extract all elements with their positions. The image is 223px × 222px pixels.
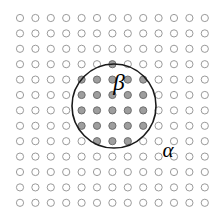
lattice-site-filled	[140, 122, 147, 129]
lattice-site-open	[47, 122, 54, 129]
lattice-site-open	[155, 199, 162, 206]
lattice-site-open	[155, 91, 162, 98]
lattice-site-open	[170, 107, 177, 114]
lattice-site-open	[16, 168, 23, 175]
lattice-site-open	[155, 153, 162, 160]
lattice-site-open	[140, 45, 147, 52]
lattice-site-filled	[124, 76, 131, 83]
lattice-site-open	[93, 153, 100, 160]
lattice-site-open	[32, 61, 39, 68]
lattice-site-open	[155, 30, 162, 37]
lattice-site-open	[47, 168, 54, 175]
lattice-site-open	[155, 138, 162, 145]
lattice-site-open	[201, 45, 208, 52]
lattice-site-open	[93, 30, 100, 37]
lattice-site-open	[63, 168, 70, 175]
lattice-site-open	[186, 122, 193, 129]
lattice-site-open	[124, 153, 131, 160]
lattice-site-open	[201, 61, 208, 68]
lattice-site-open	[201, 30, 208, 37]
lattice-site-open	[140, 153, 147, 160]
lattice-site-open	[186, 107, 193, 114]
lattice-site-open	[78, 61, 85, 68]
lattice-site-open	[124, 14, 131, 21]
lattice-site-open	[186, 168, 193, 175]
lattice-site-open	[32, 122, 39, 129]
lattice-site-open	[32, 107, 39, 114]
beta-label: β	[112, 70, 125, 95]
lattice-site-open	[63, 199, 70, 206]
lattice-plot-canvas: β α	[0, 0, 223, 222]
lattice-site-open	[170, 199, 177, 206]
lattice-site-open	[201, 153, 208, 160]
lattice-site-open	[170, 45, 177, 52]
lattice-site-open	[63, 91, 70, 98]
lattice-site-open	[140, 168, 147, 175]
lattice-site-open	[78, 184, 85, 191]
lattice-site-open	[201, 184, 208, 191]
lattice-site-open	[170, 76, 177, 83]
lattice-site-open	[170, 14, 177, 21]
lattice-site-open	[63, 153, 70, 160]
lattice-site-open	[78, 45, 85, 52]
lattice-site-open	[186, 76, 193, 83]
lattice-site-filled	[109, 107, 116, 114]
lattice-site-open	[140, 199, 147, 206]
lattice-site-open	[140, 61, 147, 68]
lattice-site-open	[201, 107, 208, 114]
lattice-site-open	[47, 199, 54, 206]
lattice-site-open	[16, 138, 23, 145]
lattice-site-open	[201, 14, 208, 21]
lattice-site-open	[63, 61, 70, 68]
lattice-site-open	[201, 168, 208, 175]
lattice-site-open	[16, 199, 23, 206]
lattice-site-open	[47, 30, 54, 37]
lattice-site-open	[93, 199, 100, 206]
lattice-site-open	[63, 122, 70, 129]
lattice-site-open	[140, 184, 147, 191]
lattice-site-open	[170, 30, 177, 37]
lattice-site-open	[63, 107, 70, 114]
lattice-site-filled	[109, 138, 116, 145]
lattice-site-open	[16, 153, 23, 160]
lattice-site-open	[47, 107, 54, 114]
lattice-site-filled	[124, 107, 131, 114]
lattice-site-filled	[124, 91, 131, 98]
lattice-site-open	[63, 45, 70, 52]
lattice-site-filled	[93, 107, 100, 114]
lattice-site-open	[63, 30, 70, 37]
lattice-site-open	[201, 138, 208, 145]
lattice-site-open	[109, 153, 116, 160]
lattice-site-open	[78, 153, 85, 160]
lattice-site-open	[16, 30, 23, 37]
lattice-site-open	[155, 122, 162, 129]
lattice-site-open	[201, 199, 208, 206]
lattice-site-open	[78, 199, 85, 206]
lattice-site-filled	[78, 107, 85, 114]
lattice-site-open	[78, 14, 85, 21]
lattice-site-open	[124, 45, 131, 52]
lattice-site-open	[186, 45, 193, 52]
lattice-site-open	[47, 91, 54, 98]
lattice-site-open	[47, 14, 54, 21]
lattice-site-open	[16, 91, 23, 98]
lattice-site-open	[16, 122, 23, 129]
lattice-site-open	[47, 45, 54, 52]
lattice-site-open	[16, 76, 23, 83]
lattice-site-open	[32, 138, 39, 145]
lattice-site-open	[78, 138, 85, 145]
lattice-site-filled	[78, 91, 85, 98]
lattice-cluster-figure: β α	[0, 0, 223, 222]
lattice-site-filled	[124, 138, 131, 145]
lattice-site-open	[32, 168, 39, 175]
lattice-site-open	[155, 184, 162, 191]
lattice-site-open	[32, 30, 39, 37]
lattice-site-filled	[93, 76, 100, 83]
lattice-site-open	[109, 45, 116, 52]
lattice-site-filled	[109, 122, 116, 129]
lattice-site-open	[124, 30, 131, 37]
lattice-site-open	[155, 76, 162, 83]
lattice-site-open	[186, 91, 193, 98]
lattice-site-open	[47, 61, 54, 68]
lattice-site-filled	[93, 122, 100, 129]
